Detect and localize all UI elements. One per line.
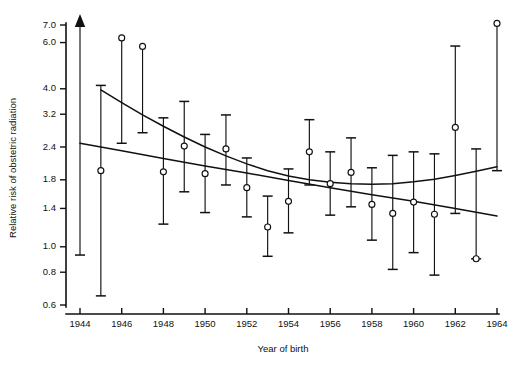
data-point-marker: [98, 168, 104, 174]
x-tick-label: 1960: [403, 318, 424, 329]
x-tick-label: 1948: [153, 318, 174, 329]
data-point-marker: [160, 169, 166, 175]
y-tick-label: 6.0: [43, 36, 56, 47]
data-point-marker: [369, 201, 375, 207]
data-point-marker: [431, 211, 437, 217]
upper-limit-arrow-icon: [75, 14, 85, 27]
data-point-marker: [327, 181, 333, 187]
x-tick-label: 1956: [320, 318, 341, 329]
data-point-marker: [348, 169, 354, 175]
x-tick-label: 1962: [445, 318, 466, 329]
y-tick-label: 2.4: [43, 141, 56, 152]
x-tick-label: 1950: [195, 318, 216, 329]
data-point-marker: [494, 20, 500, 26]
data-point-marker: [181, 143, 187, 149]
data-point-marker: [306, 149, 312, 155]
y-tick-label: 1.4: [43, 202, 56, 213]
y-axis-title: Relative risk of obstetric radiation: [7, 98, 18, 238]
data-point-marker: [452, 124, 458, 130]
data-point-marker: [411, 199, 417, 205]
x-axis-title: Year of birth: [258, 343, 309, 354]
y-tick-label: 1.8: [43, 173, 56, 184]
error-bar-group: [75, 14, 502, 296]
chart-figure: 0.60.81.01.41.82.43.24.06.07.0 194419461…: [0, 0, 527, 369]
y-tick-label: 0.8: [43, 266, 56, 277]
y-tick-label: 3.2: [43, 108, 56, 119]
x-tick-label: 1944: [69, 318, 90, 329]
y-axis-ticks: 0.60.81.01.41.82.43.24.06.07.0: [43, 19, 66, 310]
x-tick-label: 1964: [486, 318, 507, 329]
x-tick-label: 1952: [236, 318, 257, 329]
data-point-marker: [223, 146, 229, 152]
x-tick-label: 1946: [111, 318, 132, 329]
scatter-plot-canvas: 0.60.81.01.41.82.43.24.06.07.0 194419461…: [0, 0, 527, 369]
data-point-marker: [202, 171, 208, 177]
data-point-marker: [265, 224, 271, 230]
data-point-marker: [140, 43, 146, 49]
data-point-marker: [244, 185, 250, 191]
y-tick-label: 7.0: [43, 19, 56, 30]
data-point-marker: [119, 35, 125, 41]
data-point-marker: [286, 198, 292, 204]
data-point-marker: [390, 210, 396, 216]
y-tick-label: 1.0: [43, 240, 56, 251]
x-tick-label: 1954: [278, 318, 299, 329]
data-point-marker: [473, 256, 479, 262]
y-tick-label: 0.6: [43, 299, 56, 310]
x-tick-label: 1958: [361, 318, 382, 329]
data-point-group: [98, 20, 500, 261]
x-axis-ticks: 1944194619481950195219541956195819601962…: [69, 308, 507, 329]
y-tick-label: 4.0: [43, 82, 56, 93]
